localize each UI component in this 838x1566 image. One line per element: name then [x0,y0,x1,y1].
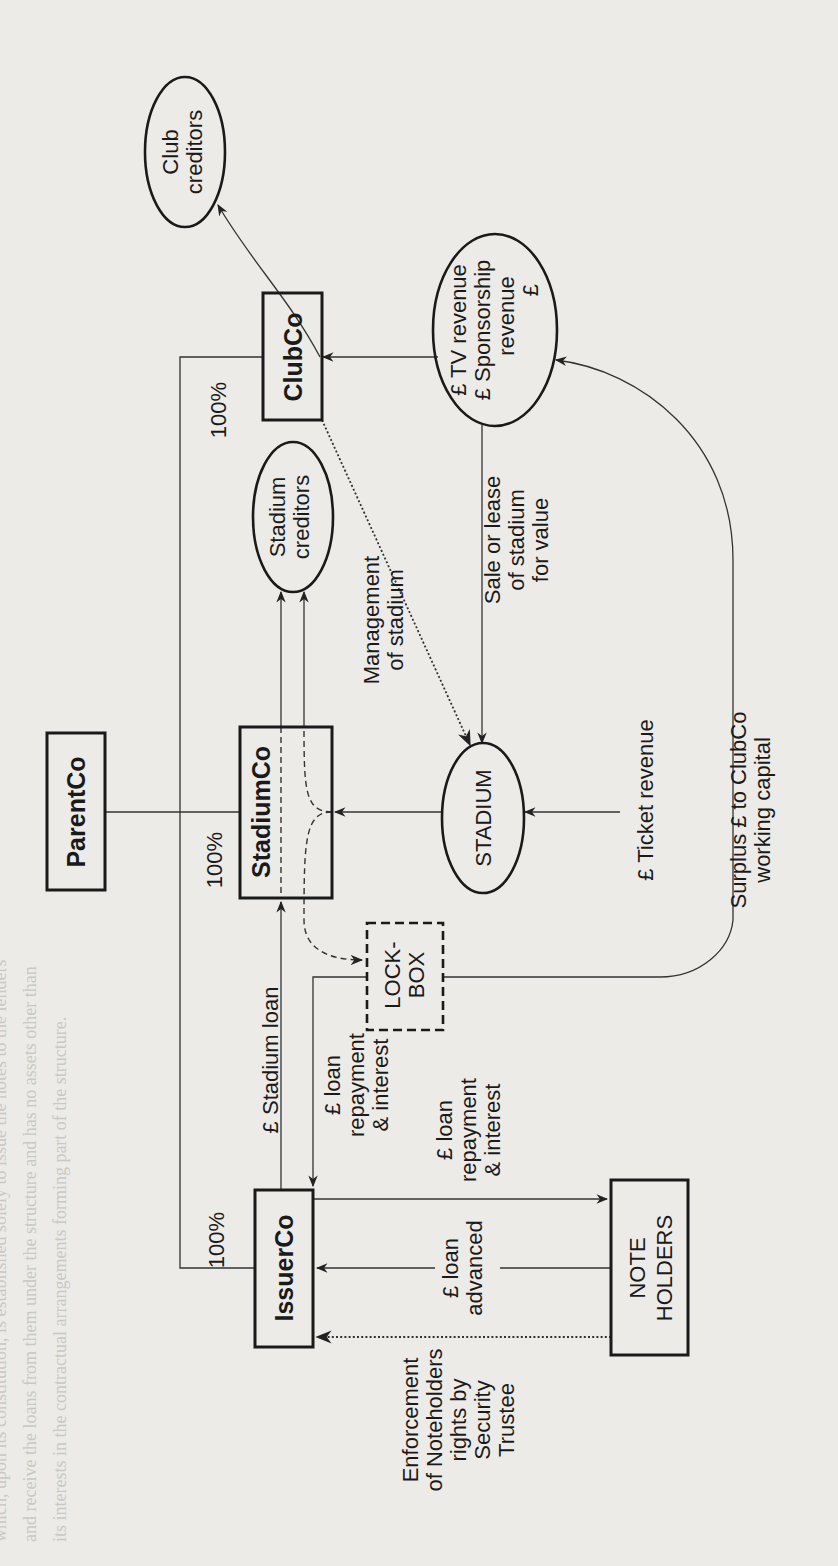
securitisation-structure-diagram: 8 Group restructuring to isolate the sec… [0,0,838,1566]
sale-lease-label-3: for value [528,498,553,582]
club-creditors-label-1: Club [158,129,183,174]
pound-sign-label: £ [518,284,543,296]
stadium-loan-label: £ Stadium loan [258,987,283,1134]
bg-line: its interests in the contractual arrange… [50,1017,70,1542]
loan-repayment-1-line-2: repayment [344,1033,369,1137]
lockbox-label-1: LOCK- [380,941,405,1008]
ticket-revenue-label: £ Ticket revenue [633,719,658,880]
sale-lease-label-1: Sale or lease [480,476,505,604]
loan-repayment-1-line-3: & interest [368,1039,393,1132]
stadium-creditors-label-1: Stadium [265,477,290,558]
clubco-label: ClubCo [279,313,307,402]
issuerco-ownership-pct: 100% [204,1212,229,1268]
background-text: 8 Group restructuring to isolate the sec… [0,957,70,1542]
loan-repayment-1-line-1: £ loan [320,1055,345,1115]
bg-line: which, upon its constitution, is establi… [0,960,10,1542]
surplus-label-2: working capital [750,737,775,884]
document-page: 8 Group restructuring to isolate the sec… [0,0,838,1566]
noteholders-label-1: NOTE [625,1237,650,1298]
bg-line: and receive the loans from them under th… [20,966,40,1542]
loan-advanced-line-2: advanced [462,1220,487,1315]
loan-advanced-line-1: £ loan [438,1238,463,1298]
noteholders-label-2: HOLDERS [652,1215,677,1321]
stadium-label: STADIUM [471,769,496,866]
club-creditors-label-2: creditors [182,110,207,194]
enforcement-line-1: Enforcement [398,1358,423,1483]
loan-repayment-2-line-2: repayment [456,1078,481,1182]
sponsorship-label: £ Sponsorship [470,260,495,401]
clubco-ownership-pct: 100% [206,382,231,438]
surplus-label-1: Surplus £ to ClubCo [726,712,751,909]
dashed-flow-2 [304,727,332,812]
issuerco-label: IssuerCo [270,1215,298,1322]
management-label-2: of stadium [383,569,408,671]
sale-lease-label-2: of stadium [504,489,529,591]
arrow-surplus-to-clubco [443,360,733,977]
lockbox-label-2: BOX [404,951,429,998]
stadium-creditors-label-2: creditors [289,475,314,559]
enforcement-line-4: Security [470,1380,495,1459]
management-label-1: Management [359,556,384,684]
enforcement-line-2: of Noteholders [422,1348,447,1491]
revenue-label: revenue [494,276,519,356]
enforcement-line-3: rights by [446,1378,471,1461]
stadiumco-label: StadiumCo [247,746,275,878]
parentco-label: ParentCo [62,756,90,867]
loan-repayment-2-line-1: £ loan [432,1100,457,1160]
loan-repayment-2-line-3: & interest [480,1084,505,1177]
stadiumco-ownership-pct: 100% [202,832,227,888]
tv-revenue-label: £ TV revenue [446,264,471,396]
enforcement-line-5: Trustee [494,1383,519,1457]
